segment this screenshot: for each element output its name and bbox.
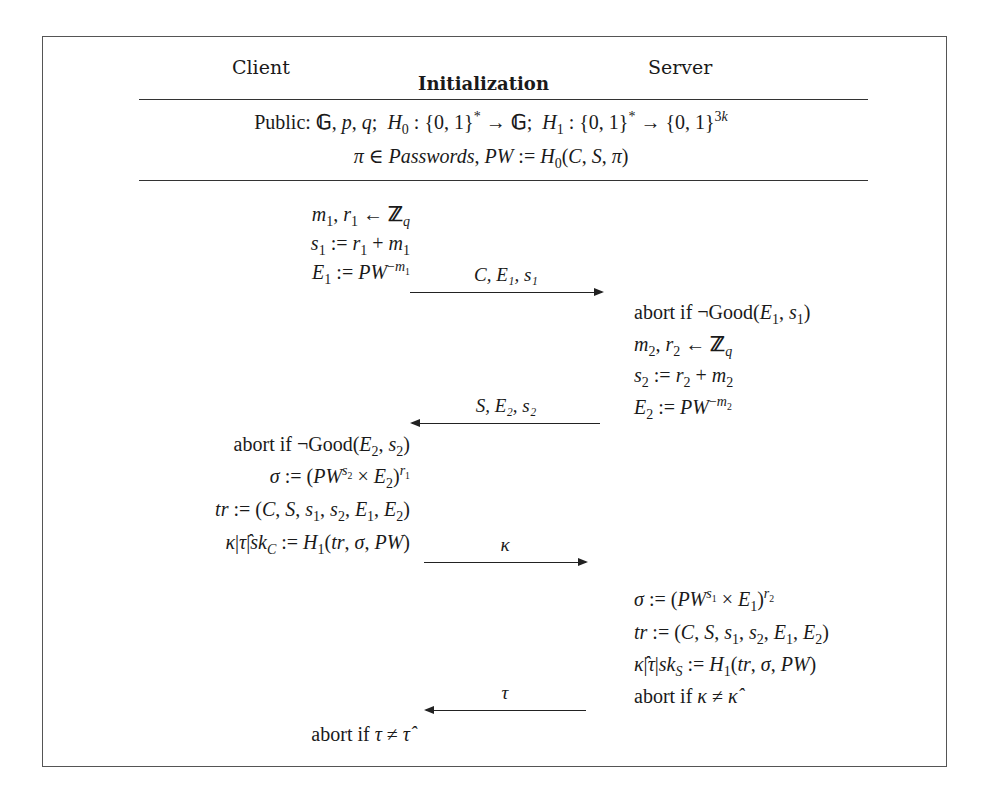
client-step-compute-sigma: σ := (PWs2 × E2)r1 xyxy=(270,464,410,488)
server-step-transcript: tr := (C, S, s1, s2, E1, E2) xyxy=(634,620,829,644)
server-step-abort-check: abort if ¬Good(E1, s1) xyxy=(634,300,810,324)
client-step-transcript: tr := (C, S, s1, s2, E1, E2) xyxy=(215,497,410,521)
public-parameters-line: Public: 𝔾, p, q; H0 : {0, 1}* → 𝔾; H1 : … xyxy=(0,110,982,134)
message-3-label: κ xyxy=(500,534,509,556)
client-step-abort-check: abort if ¬Good(E2, s2) xyxy=(234,432,410,456)
message-4-label: τ xyxy=(502,682,509,704)
arrow-left-icon xyxy=(426,710,586,711)
arrow-left-icon xyxy=(412,423,600,424)
header-rule-top xyxy=(139,99,868,100)
public-parameters-text: Public: 𝔾, p, q; H0 : {0, 1}* → 𝔾; H1 : … xyxy=(254,111,728,133)
server-step-derive-keys: κ̂|τ|skS := H1(tr, σ, PW) xyxy=(634,652,816,676)
client-step-compute-s1: s1 := r1 + m1 xyxy=(311,231,410,255)
client-step-sample: m1, r1 ← ℤq xyxy=(312,202,410,226)
password-definition-text: π ∈ Passwords, PW := H0(C, S, π) xyxy=(354,145,629,167)
server-step-key-confirm: abort if κ ≠ κ̂ xyxy=(634,684,738,708)
server-step-sample: m2, r2 ← ℤq xyxy=(634,332,732,356)
server-step-compute-s2: s2 := r2 + m2 xyxy=(634,363,733,387)
message-1-label: C, E₁, s₁ xyxy=(474,264,538,286)
arrow-right-icon xyxy=(410,292,602,293)
server-header: Server xyxy=(648,56,712,78)
password-definition-line: π ∈ Passwords, PW := H0(C, S, π) xyxy=(0,144,982,168)
client-step-compute-e1: E1 := PW−m1 xyxy=(312,260,410,284)
arrow-right-icon xyxy=(424,562,586,563)
client-header: Client xyxy=(232,56,290,78)
section-title: Initialization xyxy=(418,73,549,94)
server-step-compute-e2: E2 := PW−m2 xyxy=(634,395,732,419)
client-step-derive-keys: κ|τ̂|skC := H1(tr, σ, PW) xyxy=(225,530,410,554)
header-rule-bottom xyxy=(139,180,868,181)
server-step-compute-sigma: σ := (PWs1 × E1)r2 xyxy=(634,587,774,611)
message-2-label: S, E₂, s₂ xyxy=(476,395,537,417)
client-step-final-abort: abort if τ ≠ τ̂ xyxy=(311,722,410,746)
